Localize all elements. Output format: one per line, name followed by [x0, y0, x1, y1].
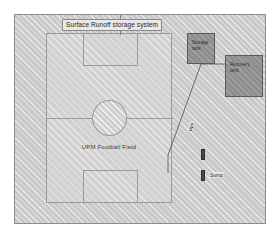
- site-plan-canvas: UPM Football Field Surface Runoff storag…: [14, 14, 266, 224]
- sump-upper: [201, 149, 205, 160]
- sump-label: Sump: [209, 172, 224, 178]
- sump-lower: [201, 170, 205, 181]
- recovery-tank: Recovery tank: [225, 55, 263, 97]
- storage-tank: Storage tank: [187, 33, 215, 64]
- pipe-network: [15, 15, 266, 224]
